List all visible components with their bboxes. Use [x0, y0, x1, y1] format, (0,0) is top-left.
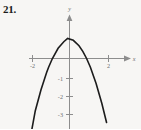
- x-tick-label-pos2: 2: [107, 62, 110, 69]
- y-axis-arrow-icon: [67, 15, 73, 22]
- parabola-curve: [31, 39, 107, 130]
- y-tick-label-neg2: -2: [58, 93, 63, 100]
- y-tick-label-neg1: -1: [58, 75, 63, 82]
- parabola-plot: -2 2 -1 -2 -3 x y: [0, 0, 141, 129]
- y-tick-label-neg3: -3: [58, 111, 63, 118]
- figure-container: 21. -2 2 -1 -2 -3 x y: [0, 0, 141, 129]
- x-tick-label-neg2: -2: [30, 62, 35, 69]
- y-axis-label: y: [67, 5, 71, 12]
- x-axis-label: x: [132, 55, 136, 62]
- x-axis-arrow-icon: [124, 56, 131, 62]
